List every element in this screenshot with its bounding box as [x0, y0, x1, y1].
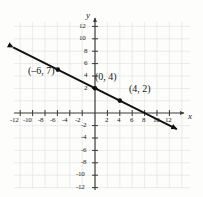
- x-tick-label-neg12: -12: [10, 117, 18, 124]
- x-tick-label-12: 12: [165, 117, 171, 124]
- y-tick-label-neg6: -6: [81, 147, 86, 154]
- x-tick-label-neg2: -2: [75, 117, 80, 124]
- point-label-0-4: (0, 4): [95, 72, 117, 82]
- coordinate-plane-figure: -12 -10 -8 -6 -4 -2 2 4 6 8 10 12 12 10 …: [0, 0, 203, 197]
- y-tick-label-10: 10: [79, 35, 85, 42]
- x-tick-label-2: 2: [105, 117, 108, 124]
- x-tick-label-neg10: -10: [23, 117, 31, 124]
- point-label-4-2: (4, 2): [129, 84, 151, 94]
- y-axis-label: y: [86, 11, 90, 20]
- y-tick-label-neg4: -4: [81, 134, 86, 141]
- x-tick-label-neg4: -4: [62, 117, 67, 124]
- x-tick-label-neg6: -6: [50, 117, 55, 124]
- y-tick-label-12: 12: [79, 23, 85, 30]
- graph-canvas: [0, 0, 203, 197]
- y-tick-label-6: 6: [84, 60, 87, 67]
- y-tick-label-8: 8: [84, 48, 87, 55]
- x-tick-label-8: 8: [142, 117, 145, 124]
- x-tick-label-4: 4: [117, 117, 120, 124]
- y-tick-label-neg8: -8: [81, 159, 86, 166]
- y-tick-label-neg10: -10: [76, 171, 84, 178]
- y-tick-label-4: 4: [84, 72, 87, 79]
- point-label-neg6-7: (–6, 7): [28, 66, 55, 76]
- y-tick-label-neg12: -12: [76, 184, 84, 191]
- x-tick-label-neg8: -8: [38, 117, 43, 124]
- data-point-3: [118, 98, 123, 103]
- x-tick-label-6: 6: [130, 117, 133, 124]
- x-axis-label: x: [188, 112, 192, 121]
- x-tick-label-10: 10: [153, 117, 159, 124]
- y-tick-label-neg2: -2: [81, 122, 86, 129]
- data-point-2: [93, 86, 98, 91]
- y-tick-label-2: 2: [84, 85, 87, 92]
- data-point-1: [56, 67, 61, 72]
- grid-horizontal: [14, 26, 190, 187]
